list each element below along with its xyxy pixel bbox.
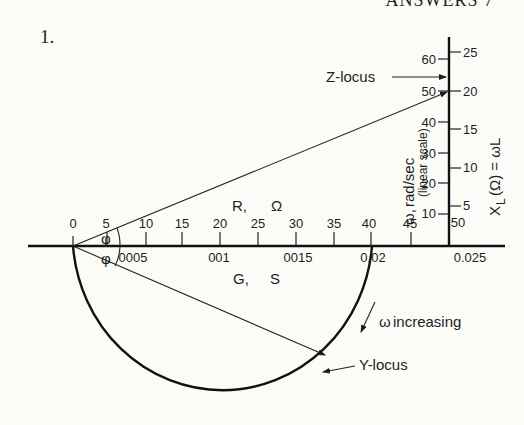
svg-text:0015: 0015 bbox=[284, 250, 313, 265]
y-locus-arrow bbox=[323, 366, 355, 372]
svg-text:rad/sec: rad/sec bbox=[400, 157, 417, 207]
xl-tick-labels: 5 10 15 20 25 bbox=[463, 45, 477, 213]
svg-text:ω,: ω, bbox=[400, 209, 417, 225]
y-locus-semicircle bbox=[73, 246, 372, 390]
svg-text:(Ω) = ωL: (Ω) = ωL bbox=[486, 138, 503, 196]
phi-label-upper: φ bbox=[101, 230, 111, 247]
g-tick-labels: 0005 001 0015 0.02 0.025 bbox=[119, 250, 487, 265]
g-axis-label: G, bbox=[233, 270, 249, 287]
z-locus-label: Z-locus bbox=[326, 68, 375, 85]
svg-text:50: 50 bbox=[451, 215, 465, 230]
g-axis-unit: S bbox=[270, 270, 280, 287]
svg-text:0.025: 0.025 bbox=[454, 250, 487, 265]
svg-text:35: 35 bbox=[327, 216, 341, 231]
svg-text:40: 40 bbox=[362, 216, 376, 231]
svg-text:15: 15 bbox=[175, 216, 189, 231]
phi-label-lower: φ bbox=[101, 250, 111, 267]
svg-text:001: 001 bbox=[208, 250, 230, 265]
svg-text:40: 40 bbox=[422, 115, 436, 130]
svg-text:10: 10 bbox=[463, 160, 477, 175]
omega-increasing-label: increasing bbox=[393, 313, 461, 330]
svg-text:20: 20 bbox=[213, 216, 227, 231]
svg-text:0005: 0005 bbox=[119, 250, 148, 265]
xl-axis-label: X L (Ω) = ωL bbox=[486, 138, 508, 216]
xl-ticks bbox=[449, 52, 461, 206]
svg-text:25: 25 bbox=[463, 45, 477, 60]
svg-text:15: 15 bbox=[463, 122, 477, 137]
locus-diagram: 0 5 10 15 20 25 30 35 40 45 50 R, Ω 0005… bbox=[0, 0, 524, 425]
omega-increasing-arrow bbox=[361, 302, 375, 332]
svg-text:X: X bbox=[486, 206, 503, 216]
y-locus-label: Y-locus bbox=[359, 356, 408, 373]
svg-text:0: 0 bbox=[69, 216, 76, 231]
svg-text:25: 25 bbox=[251, 216, 265, 231]
svg-text:60: 60 bbox=[422, 52, 436, 67]
r-axis-unit: Ω bbox=[271, 197, 282, 214]
svg-text:5: 5 bbox=[463, 198, 470, 213]
svg-text:5: 5 bbox=[102, 216, 109, 231]
omega-increasing-symbol: ω bbox=[379, 313, 391, 330]
svg-text:30: 30 bbox=[289, 216, 303, 231]
svg-text:(linear scale): (linear scale) bbox=[416, 128, 430, 197]
svg-text:10: 10 bbox=[422, 206, 436, 221]
svg-text:0.02: 0.02 bbox=[360, 250, 385, 265]
svg-text:50: 50 bbox=[422, 84, 436, 99]
svg-text:20: 20 bbox=[463, 84, 477, 99]
svg-text:L: L bbox=[494, 198, 508, 205]
r-ticks bbox=[73, 232, 411, 246]
r-axis-label: R, bbox=[232, 197, 247, 214]
phi-arc-upper bbox=[117, 228, 120, 246]
omega-ticks bbox=[438, 59, 449, 214]
